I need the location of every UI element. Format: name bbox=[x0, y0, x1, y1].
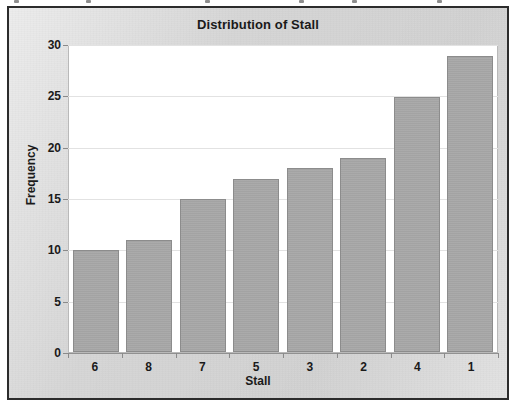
bar[interactable] bbox=[233, 179, 279, 352]
y-tick-mark bbox=[63, 250, 68, 251]
chart-title: Distribution of Stall bbox=[9, 17, 507, 32]
x-tick-mark bbox=[391, 353, 392, 358]
bar[interactable] bbox=[340, 158, 386, 352]
x-tick-mark bbox=[229, 353, 230, 358]
bar-slot bbox=[69, 46, 123, 352]
x-tick-mark bbox=[283, 353, 284, 358]
bar[interactable] bbox=[180, 199, 226, 352]
y-tick-label: 25 bbox=[48, 89, 61, 103]
bar-slot bbox=[283, 46, 337, 352]
x-tick-mark bbox=[444, 353, 445, 358]
x-tick-label: 5 bbox=[229, 360, 283, 374]
chart-screenshot: Distribution of Stall Frequency 05101520… bbox=[0, 0, 516, 408]
y-tick-label: 20 bbox=[48, 141, 61, 155]
bar[interactable] bbox=[126, 240, 172, 352]
clipped-text-artifact bbox=[0, 0, 516, 5]
y-tick-label: 10 bbox=[48, 243, 61, 257]
y-tick-mark bbox=[63, 302, 68, 303]
y-tick-label: 30 bbox=[48, 38, 61, 52]
bar[interactable] bbox=[447, 56, 493, 352]
x-tick-label: 3 bbox=[283, 360, 337, 374]
bar-slot bbox=[176, 46, 230, 352]
x-tick-label: 1 bbox=[444, 360, 498, 374]
bar-slot bbox=[123, 46, 177, 352]
y-tick-label: 15 bbox=[48, 192, 61, 206]
x-tick-mark bbox=[498, 353, 499, 358]
bar-slot bbox=[390, 46, 444, 352]
y-tick-mark bbox=[63, 199, 68, 200]
x-tick-label: 6 bbox=[68, 360, 122, 374]
y-tick-mark bbox=[63, 45, 68, 46]
bar-slot bbox=[337, 46, 391, 352]
bars-layer bbox=[69, 46, 497, 352]
x-axis-ticks bbox=[68, 353, 498, 359]
chart-frame: Distribution of Stall Frequency 05101520… bbox=[7, 6, 509, 400]
y-tick-mark bbox=[63, 96, 68, 97]
bar-slot bbox=[444, 46, 498, 352]
x-tick-mark bbox=[68, 353, 69, 358]
x-tick-label: 4 bbox=[391, 360, 445, 374]
bar[interactable] bbox=[287, 168, 333, 352]
x-tick-label: 8 bbox=[122, 360, 176, 374]
bar[interactable] bbox=[394, 97, 440, 352]
x-tick-label: 2 bbox=[337, 360, 391, 374]
bar-slot bbox=[230, 46, 284, 352]
x-tick-mark bbox=[176, 353, 177, 358]
bar[interactable] bbox=[73, 250, 119, 352]
plot-area: 051015202530 bbox=[68, 45, 498, 353]
x-tick-mark bbox=[122, 353, 123, 358]
x-axis-tick-labels: 68753241 bbox=[68, 360, 498, 374]
y-axis-title: Frequency bbox=[24, 115, 38, 235]
x-axis-title: Stall bbox=[9, 374, 507, 388]
x-tick-label: 7 bbox=[176, 360, 230, 374]
y-tick-label: 0 bbox=[54, 346, 61, 360]
y-tick-label: 5 bbox=[54, 295, 61, 309]
y-tick-mark bbox=[63, 148, 68, 149]
x-tick-mark bbox=[337, 353, 338, 358]
